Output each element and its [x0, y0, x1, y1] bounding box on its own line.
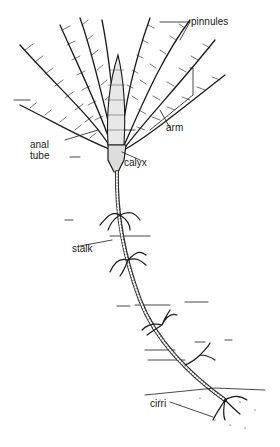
seafloor — [145, 388, 265, 395]
label-arm: arm — [166, 123, 183, 133]
sediment-dots — [159, 397, 255, 428]
label-anal-tube-line2: tube — [30, 151, 49, 161]
crinoid-illustration — [0, 0, 280, 447]
label-cirri: cirri — [150, 399, 166, 409]
label-pinnules: pinnules — [191, 17, 228, 27]
label-stalk: stalk — [72, 244, 93, 254]
stalk — [117, 172, 225, 400]
crinoid-diagram: pinnules arm anal tube calyx stalk cirri — [0, 0, 280, 447]
label-anal-tube-line1: anal — [30, 140, 49, 150]
label-calyx: calyx — [124, 158, 147, 168]
